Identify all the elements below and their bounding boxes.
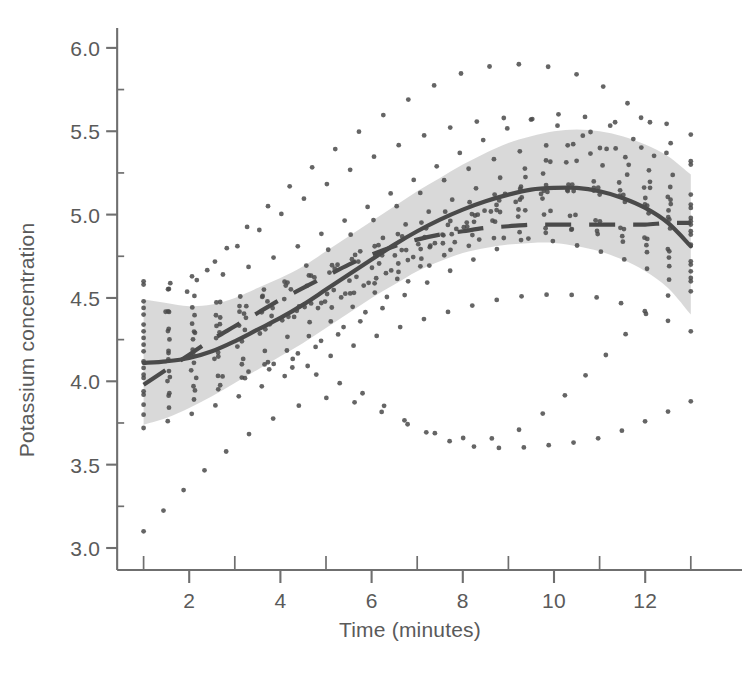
x-tick-label: 10 (542, 589, 566, 612)
x-tick-label: 8 (457, 589, 469, 612)
x-tick-label: 4 (274, 589, 286, 612)
y-tick-label: 5.5 (70, 120, 100, 143)
y-tick-label: 6.0 (70, 37, 100, 60)
y-tick-label: 3.5 (70, 454, 100, 477)
y-tick-label: 4.5 (70, 287, 100, 310)
x-tick-label: 6 (366, 589, 378, 612)
y-tick-label: 3.0 (70, 537, 100, 560)
x-tick-label: 2 (183, 589, 195, 612)
y-tick-label: 5.0 (70, 204, 100, 227)
y-tick-label: 4.0 (70, 370, 100, 393)
x-axis-label: Time (minutes) (339, 618, 481, 641)
x-tick-label: 12 (633, 589, 657, 612)
potassium-concentration-chart: 3.03.54.04.55.05.56.024681012Time (minut… (0, 0, 754, 675)
y-axis-label: Potassium concentration (15, 223, 38, 458)
